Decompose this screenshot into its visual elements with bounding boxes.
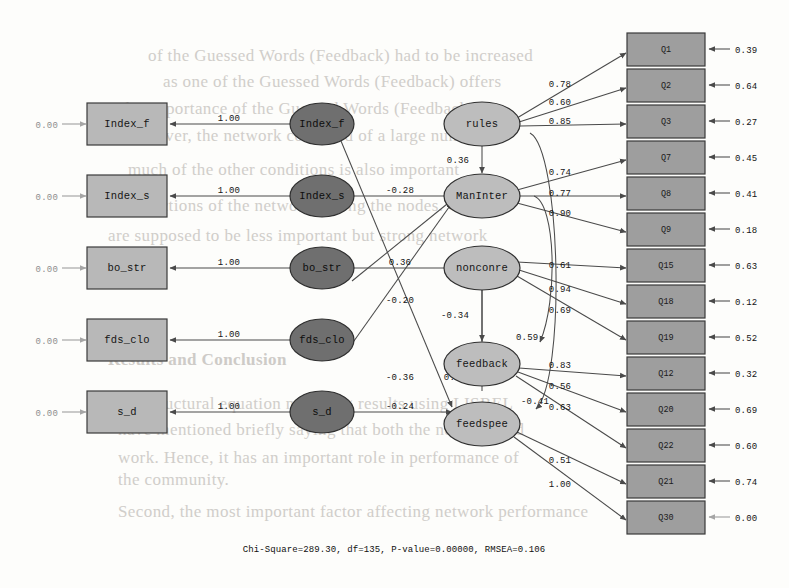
loading-q1: 0.78 [549,80,571,90]
indicator-box-q15[interactable]: Q15 [627,249,705,282]
residual-s-d: 0.00 [36,409,58,419]
indicator-label: Q21 [658,477,673,487]
latent-s-d[interactable]: s_d [290,391,354,433]
observed-box-fds-clo[interactable]: fds_clo [87,319,167,361]
residual-q22: 0.60 [735,442,757,452]
indicator-label: Q20 [658,405,673,415]
latent-label: rules [466,118,499,130]
path-fds-clo-to-maninter [344,203,452,355]
indicator-label: Q9 [661,225,671,235]
observed-label: fds_clo [104,334,150,346]
observed-box-bo-str[interactable]: bo_str [87,247,167,289]
latent-index-f[interactable]: Index_f [290,103,354,145]
residual-q30: 0.00 [735,514,757,524]
coef-bo-str-nonconre: 0.36 [389,258,411,268]
residual-q1: 0.39 [735,46,757,56]
loading-q18: 0.94 [549,285,571,295]
indicator-label: Q7 [661,153,671,163]
indicator-label: Q18 [658,297,673,307]
latent-bo-str[interactable]: bo_str [290,247,354,289]
latent-maninter[interactable]: ManInter [444,174,520,218]
indicator-residual-arrows [709,49,730,517]
latent-label: fds_clo [299,334,345,346]
residual-fds-clo: 0.00 [36,337,58,347]
indicator-box-q3[interactable]: Q3 [627,105,705,138]
observed-label: Index_f [104,118,150,130]
latent-rules[interactable]: rules [444,102,520,146]
indicator-box-q7[interactable]: Q7 [627,141,705,174]
loading-q9: 0.90 [549,209,571,219]
indicator-box-q19[interactable]: Q19 [627,321,705,354]
residual-bo-str: 0.00 [36,265,58,275]
residual-q3: 0.27 [735,118,757,128]
loading-s-d: 1.00 [218,402,240,412]
loading-q19: 0.69 [549,306,571,316]
observed-box-index-f[interactable]: Index_f [87,103,167,145]
latent-index-s[interactable]: Index_s [290,175,354,217]
latent-label: feedspee [456,418,508,430]
loading-q20: 0.56 [549,382,571,392]
observed-box-index-s[interactable]: Index_s [87,175,167,217]
loading-q21: 0.51 [549,456,571,466]
loading-q30: 1.00 [549,480,571,490]
indicator-box-q20[interactable]: Q20 [627,393,705,426]
residual-q21: 0.74 [735,478,757,488]
loading-q8: 0.77 [549,189,571,199]
indicator-label: Q22 [658,441,673,451]
latent-feedspee[interactable]: feedspee [444,402,520,446]
exogenous-loading-labels: 1.00 1.00 1.00 1.00 1.00 [218,114,240,412]
observed-label: s_d [117,406,137,418]
loading-q22: 0.63 [549,403,571,413]
indicator-residual-labels: 0.39 0.64 0.27 0.45 0.41 0.18 0.63 0.12 … [735,46,757,524]
coef-index-f-feedspee: -0.20 [386,296,414,306]
fit-statistics-caption: Chi-Square=289.30, df=135, P-value=0.000… [243,545,546,555]
indicator-label: Q8 [661,189,671,199]
indicator-box-q2[interactable]: Q2 [627,69,705,102]
coef-rules-feedspee: -0.41 [521,397,549,407]
indicator-label: Q1 [661,45,671,55]
latent-feedback[interactable]: feedback [444,342,520,386]
indicator-box-q9[interactable]: Q9 [627,213,705,246]
figure-canvas: of the Guessed Words (Feedback) had to b… [0,0,789,588]
residual-index-s: 0.00 [36,193,58,203]
indicator-box-q21[interactable]: Q21 [627,465,705,498]
indicator-box-q1[interactable]: Q1 [627,33,705,66]
residual-q9: 0.18 [735,226,757,236]
residual-q20: 0.69 [735,406,757,416]
residual-q12: 0.32 [735,370,757,380]
latent-fds-clo[interactable]: fds_clo [290,319,354,361]
path-bo-str-to-maninter [352,200,452,281]
coef-fds-clo-maninter: -0.36 [386,373,414,383]
loading-index-f: 1.00 [218,114,240,124]
indicator-label: Q3 [661,117,671,127]
loading-q2: 0.60 [549,98,571,108]
loading-q7: 0.74 [549,168,571,178]
residual-q7: 0.45 [735,154,757,164]
residual-q2: 0.64 [735,82,757,92]
indicator-loading-labels: 0.78 0.60 0.85 0.74 0.77 0.90 0.61 0.94 … [549,80,571,490]
indicator-box-q18[interactable]: Q18 [627,285,705,318]
path-index-f-to-feedspee [341,141,452,407]
residual-q18: 0.12 [735,298,757,308]
indicator-label: Q30 [658,513,673,523]
indicator-label: Q19 [658,333,673,343]
indicator-box-q30[interactable]: Q30 [627,501,705,534]
latent-nonconre[interactable]: nonconre [444,246,520,290]
coef-index-s-maninter: -0.28 [386,186,414,196]
observed-label: bo_str [107,262,146,274]
loading-fds-clo: 1.00 [218,330,240,340]
observed-box-s-d[interactable]: s_d [87,391,167,433]
loading-q15: 0.61 [549,261,571,271]
indicator-label: Q2 [661,81,671,91]
loading-bo-str: 1.00 [218,258,240,268]
indicator-box-q12[interactable]: Q12 [627,357,705,390]
loading-q12: 0.83 [549,361,571,371]
indicator-box-q8[interactable]: Q8 [627,177,705,210]
exogenous-loading-arrows [170,124,291,412]
coef-nonconre-feedback: -0.34 [441,311,469,321]
observed-label: Index_s [104,190,150,202]
loading-q3: 0.85 [549,117,571,127]
left-residual-arrows [62,124,86,412]
loading-index-s: 1.00 [218,186,240,196]
indicator-box-q22[interactable]: Q22 [627,429,705,462]
